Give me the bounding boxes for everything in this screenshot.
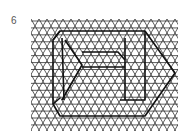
isometric-grid-diagram [0, 0, 187, 136]
triangular-grid [0, 19, 187, 131]
